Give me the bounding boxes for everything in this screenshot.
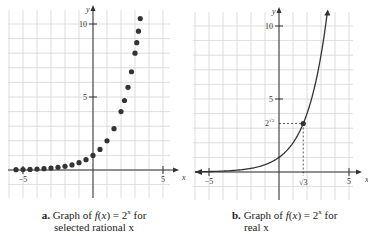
y-tick-label: 10 — [79, 20, 87, 29]
data-point — [125, 85, 130, 90]
data-point — [62, 164, 67, 169]
y-tick-label: 5 — [269, 95, 273, 104]
y-tick-label: 10 — [265, 22, 273, 31]
sqrt3-label: √3 — [299, 178, 307, 187]
highlight-point — [301, 121, 306, 126]
data-point — [97, 147, 102, 152]
data-point — [122, 98, 127, 103]
y-tick-label: 5 — [83, 93, 87, 102]
data-point — [34, 167, 39, 172]
data-point — [129, 69, 134, 74]
x-axis-label: x — [364, 175, 368, 184]
y-axis-arrow-icon — [91, 5, 96, 11]
data-point — [41, 166, 46, 171]
data-point — [69, 162, 74, 167]
caption-b-line2: real x — [232, 221, 269, 233]
caption-b: b. Graph of f(x) = 2x for real x — [232, 206, 352, 233]
data-point — [111, 126, 116, 131]
data-point — [76, 160, 81, 165]
data-point — [27, 167, 32, 172]
data-point — [83, 157, 88, 162]
data-point — [132, 51, 137, 56]
data-point — [118, 109, 123, 114]
figure: −55510xy −55510xy√32√3 — [0, 0, 368, 236]
caption-a-label: a. — [42, 209, 50, 221]
data-point — [13, 167, 18, 172]
x-tick-label: 5 — [347, 177, 351, 186]
x-axis-arrow-icon — [173, 168, 179, 173]
data-point — [138, 16, 143, 21]
two-pow-sqrt3-sup: √3 — [269, 118, 275, 123]
x-axis-label: x — [181, 173, 186, 182]
y-axis-arrow-icon — [277, 7, 282, 13]
caption-b-text: Graph of f(x) = 2x for — [244, 209, 338, 221]
data-point — [104, 138, 109, 143]
x-tick-label: −5 — [205, 177, 214, 186]
x-tick-label: 5 — [161, 175, 165, 184]
data-point — [48, 166, 53, 171]
curve — [195, 12, 327, 171]
data-point — [134, 40, 139, 45]
caption-a: a. Graph of f(x) = 2x for selected ratio… — [34, 206, 154, 233]
data-point — [55, 165, 60, 170]
x-axis-arrow-icon — [356, 170, 362, 175]
caption-a-text: Graph of f(x) = 2x for — [53, 209, 147, 221]
chart-panel-a: −55510xy — [8, 5, 186, 198]
curve-arrow-icon — [324, 9, 330, 15]
data-point — [90, 153, 95, 158]
data-point — [136, 29, 141, 34]
x-tick-label: −5 — [19, 175, 28, 184]
data-point — [20, 167, 25, 172]
y-axis-label: y — [85, 5, 90, 14]
y-axis-label: y — [271, 7, 276, 16]
caption-a-line2: selected rational x — [54, 221, 134, 233]
chart-panel-b: −55510xy√32√3 — [193, 7, 368, 200]
caption-b-label: b. — [232, 209, 241, 221]
